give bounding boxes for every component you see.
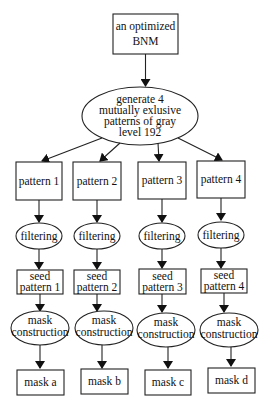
pattern-4-label: pattern 4 bbox=[201, 173, 242, 186]
root-line-1: an optimized bbox=[116, 20, 176, 33]
flowchart: an optimized BNM generate 4 mutually exl… bbox=[0, 0, 276, 410]
seed-1-line-2: pattern 1 bbox=[20, 281, 61, 294]
mask-c-label: mask c bbox=[152, 376, 184, 388]
seed-4-line-2: pattern 4 bbox=[204, 280, 245, 293]
mask-construction-1-line-1: mask bbox=[28, 314, 53, 326]
seed-2-line-2: pattern 2 bbox=[77, 281, 118, 294]
filtering-4-label: filtering bbox=[202, 229, 239, 242]
edge-generator-to-pattern-2 bbox=[100, 143, 120, 161]
generator-line-4: level 192 bbox=[119, 126, 162, 138]
mask-construction-3-line-2: construction bbox=[138, 328, 195, 340]
edge-generator-to-pattern-1 bbox=[42, 138, 102, 161]
root-node-optimized-bnm: an optimized BNM bbox=[113, 14, 178, 54]
mask-construction-2-line-2: construction bbox=[76, 326, 133, 338]
column-3: pattern 3 filtering seed pattern 3 mask … bbox=[137, 162, 195, 395]
column-2: pattern 2 filtering seed pattern 2 mask … bbox=[73, 162, 133, 394]
pattern-1-label: pattern 1 bbox=[19, 175, 60, 188]
edge-generator-to-pattern-3 bbox=[158, 143, 159, 161]
pattern-2-label: pattern 2 bbox=[77, 175, 118, 188]
mask-b-label: mask b bbox=[88, 375, 121, 387]
mask-construction-3-line-1: mask bbox=[154, 316, 179, 328]
generator-node: generate 4 mutually exlusive patterns of… bbox=[82, 87, 198, 145]
edge-generator-to-pattern-4 bbox=[178, 138, 222, 160]
filtering-2-label: filtering bbox=[78, 230, 115, 243]
mask-a-label: mask a bbox=[24, 376, 56, 388]
filtering-1-label: filtering bbox=[20, 230, 57, 243]
pattern-3-label: pattern 3 bbox=[142, 174, 183, 187]
mask-construction-4-line-1: mask bbox=[217, 316, 242, 328]
column-4: pattern 4 filtering seed pattern 4 mask … bbox=[197, 161, 258, 393]
mask-construction-4-line-2: construction bbox=[201, 328, 258, 340]
root-line-2: BNM bbox=[132, 35, 158, 47]
column-1: pattern 1 filtering seed pattern 1 mask … bbox=[11, 162, 69, 395]
mask-construction-1-line-2: construction bbox=[12, 326, 69, 338]
mask-construction-2-line-1: mask bbox=[92, 314, 117, 326]
filtering-3-label: filtering bbox=[143, 230, 180, 243]
mask-d-label: mask d bbox=[215, 374, 248, 386]
seed-3-line-2: pattern 3 bbox=[142, 281, 183, 294]
